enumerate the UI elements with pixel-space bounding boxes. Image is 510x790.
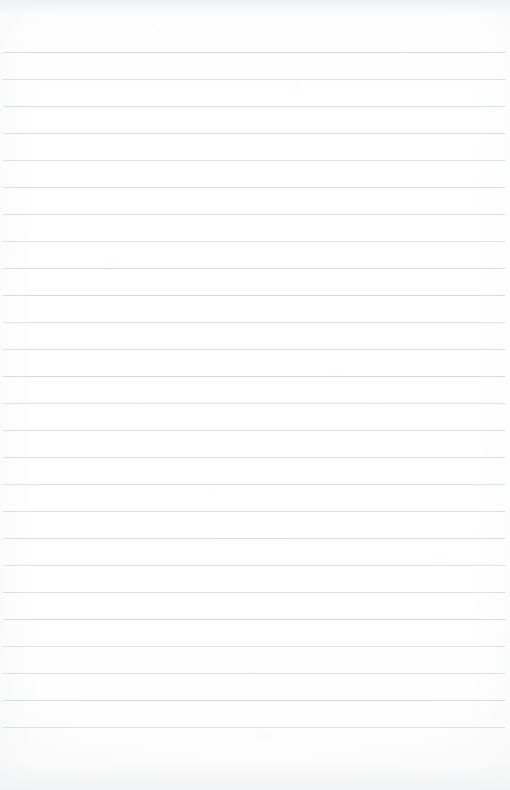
paper-background: [0, 0, 510, 790]
notebook-page: [0, 0, 510, 790]
